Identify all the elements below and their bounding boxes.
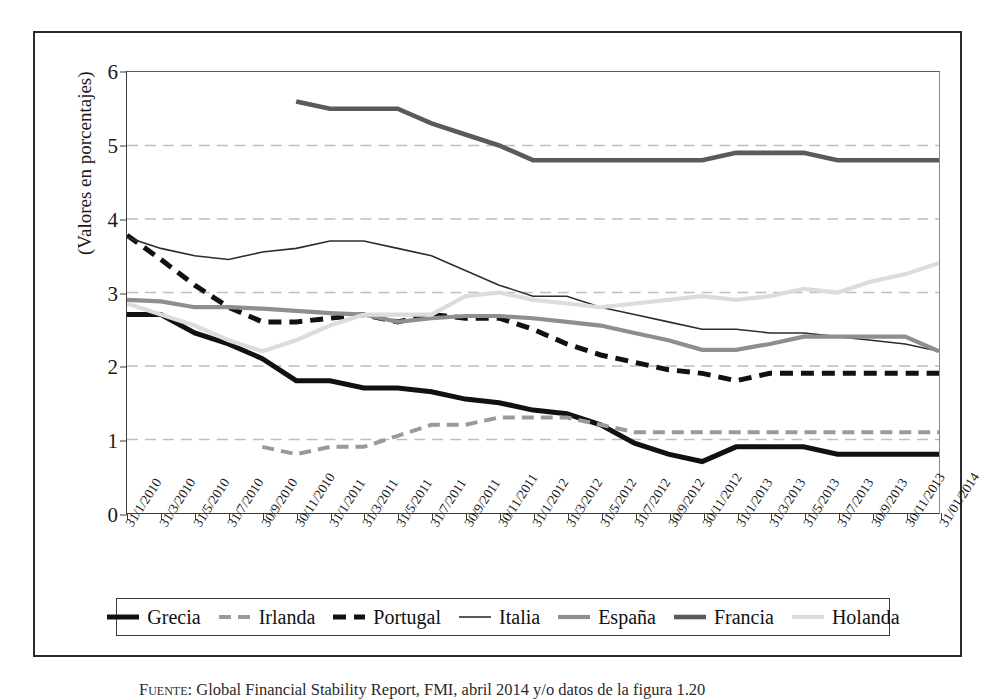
- legend-swatch-portugal: [332, 610, 366, 624]
- legend-item-irlanda: Irlanda: [218, 607, 316, 627]
- caption-source-label: Fuente:: [139, 681, 192, 699]
- y-tick-label: 3: [108, 283, 119, 304]
- y-tick-label: 2: [108, 357, 119, 378]
- y-tick-mark: [120, 72, 127, 73]
- y-tick-label: 0: [108, 505, 119, 526]
- legend-swatch-francia: [673, 610, 707, 624]
- legend-swatch-holanda: [791, 610, 825, 624]
- legend-label: Irlanda: [259, 607, 316, 627]
- series-lines: [127, 101, 939, 461]
- y-tick-mark: [120, 441, 127, 442]
- legend-label: España: [598, 607, 656, 627]
- legend-item-francia: Francia: [673, 607, 774, 627]
- series-line-francia: [296, 101, 939, 160]
- legend-item-españa: España: [557, 607, 656, 627]
- gridlines: [127, 146, 939, 440]
- legend-item-holanda: Holanda: [791, 607, 900, 627]
- y-tick-label: 6: [108, 62, 119, 83]
- series-line-españa: [127, 300, 939, 351]
- plot-area: 0123456 31/1/201031/3/201031/5/201031/7/…: [126, 71, 940, 514]
- y-axis-title: (Valores en porcentajes): [74, 71, 96, 255]
- legend-label: Grecia: [147, 607, 200, 627]
- y-tick-mark: [120, 219, 127, 220]
- y-tick-mark: [120, 145, 127, 146]
- y-tick-mark: [120, 293, 127, 294]
- y-tick-mark: [120, 367, 127, 368]
- legend-item-grecia: Grecia: [106, 607, 200, 627]
- figure-frame: (Valores en porcentajes) 0123456 31/1/20…: [33, 31, 962, 657]
- figure-caption: Fuente: Global Financial Stability Repor…: [139, 681, 899, 700]
- legend-label: Portugal: [373, 607, 441, 627]
- legend-swatch-irlanda: [218, 610, 252, 624]
- caption-source-text: Global Financial Stability Report, FMI, …: [196, 681, 705, 699]
- chart-canvas: [127, 72, 939, 513]
- y-tick-label: 1: [108, 431, 119, 452]
- series-line-irlanda: [262, 417, 939, 454]
- legend-swatch-italia: [458, 610, 492, 624]
- legend-label: Italia: [499, 607, 540, 627]
- chart-legend: GreciaIrlandaPortugalItaliaEspañaFrancia…: [116, 598, 890, 636]
- y-tick-label: 4: [108, 209, 119, 230]
- series-line-italia: [127, 237, 939, 351]
- legend-item-portugal: Portugal: [332, 607, 441, 627]
- y-tick-label: 5: [108, 135, 119, 156]
- legend-item-italia: Italia: [458, 607, 540, 627]
- legend-label: Holanda: [832, 607, 900, 627]
- legend-swatch-grecia: [106, 610, 140, 624]
- legend-label: Francia: [714, 607, 774, 627]
- legend-swatch-españa: [557, 610, 591, 624]
